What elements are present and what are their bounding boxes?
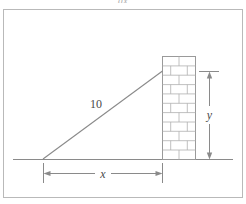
height-label: y <box>206 108 213 122</box>
height-dimension-arrow-down <box>207 153 212 160</box>
base-dimension-arrow-left <box>44 171 51 176</box>
figure-root: dx <box>0 0 246 204</box>
base-dimension-arrow-right <box>156 171 163 176</box>
height-dimension: y <box>199 72 219 160</box>
ladder-length-label: 10 <box>90 97 102 111</box>
height-dimension-arrow-up <box>207 72 212 79</box>
ladder-line <box>43 71 163 159</box>
base-dimension: x <box>44 163 163 183</box>
brick-wall-outline <box>163 57 196 160</box>
base-label: x <box>99 167 106 181</box>
figure-frame <box>4 10 243 198</box>
brick-wall <box>163 57 196 160</box>
geometry-diagram: 10 y x <box>0 0 246 204</box>
